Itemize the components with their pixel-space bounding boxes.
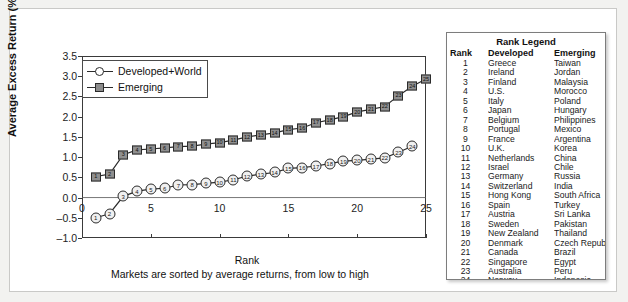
data-point-developed-10: 10 <box>214 177 225 188</box>
data-point-emerging-4: 4 <box>132 145 142 154</box>
y-tick-mark <box>78 177 82 178</box>
data-point-developed-21: 21 <box>365 154 376 165</box>
data-point-developed-7: 7 <box>173 180 184 191</box>
square-filled-marker-icon <box>87 81 113 93</box>
data-point-emerging-8: 8 <box>187 142 197 151</box>
rank-legend-cell-developed: Belgium <box>488 116 554 125</box>
data-point-emerging-1: 1 <box>91 172 101 181</box>
rank-legend-header-row: Rank Developed Emerging <box>447 48 606 59</box>
rank-legend-row: 12IsraelChile <box>447 163 606 172</box>
rank-legend-box: Rank Legend Rank Developed Emerging 1Gre… <box>446 32 606 280</box>
data-point-emerging-25: 25 <box>421 75 431 84</box>
rank-legend-cell-emerging: Korea <box>554 144 606 153</box>
data-point-emerging-14: 14 <box>270 128 280 137</box>
rank-legend-cell-rank: 12 <box>447 163 488 172</box>
rank-legend-cell-developed: Greece <box>488 59 554 68</box>
rank-legend-cell-developed: Ireland <box>488 68 554 77</box>
rank-legend-cell-developed: Germany <box>488 172 554 181</box>
rank-legend-cell-rank: 9 <box>447 135 488 144</box>
rank-legend-cell-developed: Sweden <box>488 220 554 229</box>
y-tick-mark <box>78 198 82 199</box>
data-point-emerging-2: 2 <box>105 170 115 179</box>
data-point-emerging-7: 7 <box>173 142 183 151</box>
rank-legend-cell-rank: 1 <box>447 59 488 68</box>
data-point-emerging-3: 3 <box>118 150 128 159</box>
data-point-developed-20: 20 <box>352 155 363 166</box>
rank-legend-cell-emerging: Sri Lanka <box>554 210 606 219</box>
data-point-emerging-22: 22 <box>380 102 390 111</box>
data-point-developed-13: 13 <box>255 169 266 180</box>
data-point-developed-5: 5 <box>145 184 156 195</box>
y-tick-mark <box>78 117 82 118</box>
data-point-emerging-24: 24 <box>407 82 417 91</box>
x-tick-label: 20 <box>351 202 363 214</box>
rank-legend-cell-developed: Denmark <box>488 239 554 248</box>
y-tick-label: 3.5 <box>49 50 77 62</box>
rank-legend-row: 10U.K.Korea <box>447 144 606 153</box>
rank-legend-cell-rank: 18 <box>447 220 488 229</box>
rank-legend-cell-rank: 23 <box>447 267 488 276</box>
x-axis-subtitle: Markets are sorted by average returns, f… <box>30 268 450 280</box>
data-point-developed-1: 1 <box>90 212 101 223</box>
x-tick-mark <box>426 234 427 238</box>
rank-legend-cell-rank: 24 <box>447 276 488 280</box>
y-tick-mark <box>78 137 82 138</box>
rank-legend-cell-emerging: Hungary <box>554 106 606 115</box>
x-tick-label: 15 <box>283 202 295 214</box>
legend-label-developed: Developed+World <box>118 65 202 77</box>
rank-legend-cell-emerging: Morocco <box>554 87 606 96</box>
data-point-developed-19: 19 <box>338 156 349 167</box>
data-point-emerging-16: 16 <box>297 123 307 132</box>
rank-legend-row: 13GermanyRussia <box>447 172 606 181</box>
rank-legend-cell-developed: Norway <box>488 276 554 280</box>
rank-legend-cell-emerging: Egypt <box>554 258 606 267</box>
rank-legend-cell-emerging: Brazil <box>554 248 606 257</box>
rank-legend-cell-emerging: Peru <box>554 267 606 276</box>
rank-legend-cell-developed: France <box>488 135 554 144</box>
data-point-developed-8: 8 <box>187 179 198 190</box>
rank-legend-row: 11NetherlandsChina <box>447 154 606 163</box>
rank-legend-cell-rank: 4 <box>447 87 488 96</box>
y-tick-mark <box>78 218 82 219</box>
rank-legend-row: 3FinlandMalaysia <box>447 78 606 87</box>
rank-legend-cell-rank: 7 <box>447 116 488 125</box>
rank-legend-cell-emerging: Malaysia <box>554 78 606 87</box>
rank-legend-row: 14SwitzerlandIndia <box>447 182 606 191</box>
data-point-developed-15: 15 <box>283 163 294 174</box>
data-point-emerging-12: 12 <box>242 132 252 141</box>
rank-legend-row: 5ItalyPoland <box>447 97 606 106</box>
rank-legend-cell-rank: 15 <box>447 191 488 200</box>
rank-legend-row: 15Hong KongSouth Africa <box>447 191 606 200</box>
data-point-developed-23: 23 <box>393 147 404 158</box>
rank-legend-row: 2IrelandJordan <box>447 68 606 77</box>
data-point-developed-22: 22 <box>379 152 390 163</box>
legend-label-emerging: Emerging <box>118 81 163 93</box>
data-point-emerging-9: 9 <box>201 140 211 149</box>
y-tick-label: 2.5 <box>49 90 77 102</box>
rank-legend-row: 9FranceArgentina <box>447 135 606 144</box>
data-point-emerging-11: 11 <box>228 136 238 145</box>
data-point-developed-18: 18 <box>324 158 335 169</box>
y-tick-mark <box>78 238 82 239</box>
data-point-emerging-17: 17 <box>311 118 321 127</box>
data-point-developed-3: 3 <box>118 191 129 202</box>
data-point-emerging-6: 6 <box>160 143 170 152</box>
rank-legend-cell-emerging: Taiwan <box>554 59 606 68</box>
rank-legend-row: 8PortugalMexico <box>447 125 606 134</box>
rank-legend-cell-developed: Portugal <box>488 125 554 134</box>
rank-legend-cell-rank: 13 <box>447 172 488 181</box>
column-header-rank: Rank <box>447 48 488 59</box>
rank-legend-cell-developed: Israel <box>488 163 554 172</box>
rank-legend-row: 4U.S.Morocco <box>447 87 606 96</box>
data-point-emerging-23: 23 <box>393 91 403 100</box>
rank-legend-row: 6JapanHungary <box>447 106 606 115</box>
rank-legend-cell-emerging: Poland <box>554 97 606 106</box>
rank-legend-cell-developed: Australia <box>488 267 554 276</box>
rank-legend-cell-emerging: China <box>554 154 606 163</box>
rank-legend-cell-developed: Canada <box>488 248 554 257</box>
data-point-emerging-21: 21 <box>366 105 376 114</box>
rank-legend-cell-rank: 16 <box>447 201 488 210</box>
y-tick-label: 2.0 <box>49 111 77 123</box>
rank-legend-cell-rank: 8 <box>447 125 488 134</box>
y-tick-mark <box>78 56 82 57</box>
